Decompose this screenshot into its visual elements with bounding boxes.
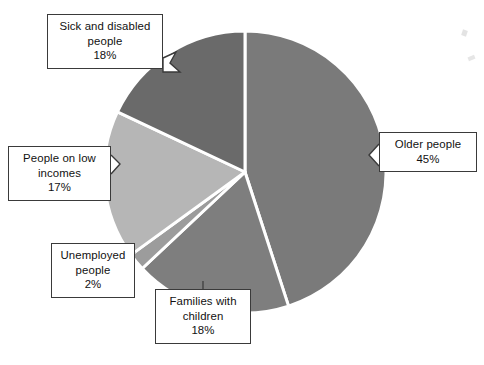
- callout-families-value: 18%: [162, 323, 244, 338]
- callout-lowincomes-line1: People on low: [15, 151, 104, 166]
- pie-chart-figure: Sick and disabled people 18% Older peopl…: [0, 0, 484, 365]
- callout-unemployed-people: Unemployed people 2%: [51, 243, 135, 298]
- callout-older-value: 45%: [386, 152, 470, 167]
- callout-unemployed-line1: Unemployed: [58, 248, 128, 263]
- callout-families-with-children: Families with children 18%: [155, 289, 251, 344]
- callout-sick-line1: Sick and disabled: [54, 19, 156, 34]
- callout-sick-and-disabled: Sick and disabled people 18%: [47, 14, 163, 69]
- callout-unemployed-line2: people: [58, 263, 128, 278]
- callout-people-on-low-incomes: People on low incomes 17%: [8, 146, 111, 201]
- callout-lowincomes-line2: incomes: [15, 166, 104, 181]
- callout-sick-line2: people: [54, 34, 156, 49]
- callout-unemployed-value: 2%: [58, 277, 128, 292]
- pie-slice-group: [104, 31, 386, 313]
- callout-sick-value: 18%: [54, 48, 156, 63]
- callout-families-line1: Families with: [162, 294, 244, 309]
- callout-families-line2: children: [162, 309, 244, 324]
- callout-older-line1: Older people: [386, 137, 470, 152]
- callout-lowincomes-value: 17%: [15, 180, 104, 195]
- callout-older-people: Older people 45%: [379, 132, 477, 172]
